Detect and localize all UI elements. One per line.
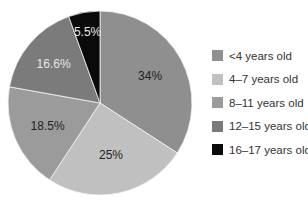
legend-item-12-15: 12–15 years old: [212, 115, 308, 139]
legend-label: 12–15 years old: [229, 120, 308, 132]
legend-item-4-7: 4–7 years old: [212, 68, 308, 92]
legend-label: 16–17 years old: [229, 144, 308, 156]
legend-swatch: [212, 50, 223, 61]
slice-label: 5.5%: [74, 25, 102, 39]
legend-label: 8–11 years old: [229, 97, 304, 109]
legend-label: <4 years old: [229, 50, 292, 62]
legend-swatch: [212, 97, 223, 108]
legend-swatch: [212, 74, 223, 85]
legend-item-under-4: <4 years old: [212, 44, 308, 68]
legend: <4 years old 4–7 years old 8–11 years ol…: [212, 44, 308, 162]
legend-item-16-17: 16–17 years old: [212, 138, 308, 162]
legend-swatch: [212, 144, 223, 155]
slice-label: 16.6%: [37, 57, 71, 71]
legend-swatch: [212, 121, 223, 132]
slice-label: 18.5%: [31, 119, 65, 133]
pie-chart: 34%25%18.5%16.6%5.5%: [0, 0, 210, 201]
legend-label: 4–7 years old: [229, 73, 298, 85]
slice-label: 25%: [99, 148, 123, 162]
slice-label: 34%: [138, 69, 162, 83]
legend-item-8-11: 8–11 years old: [212, 91, 308, 115]
